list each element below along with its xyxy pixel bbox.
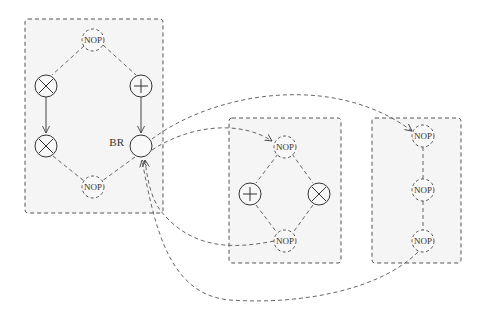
b1-multiply-node-1 — [35, 75, 57, 97]
nop-label: NOP — [414, 185, 432, 195]
nop-label: NOP — [276, 236, 294, 246]
b2-add-node — [239, 183, 261, 205]
nop-label: NOP — [84, 182, 102, 192]
nop-label: NOP — [414, 131, 432, 141]
b2-multiply-node — [308, 183, 330, 205]
nop-label: NOP — [414, 236, 432, 246]
b1-nop-bottom-node: NOP — [82, 176, 104, 198]
branch-label: BR — [109, 136, 124, 148]
b3-nop-3-node: NOP — [412, 230, 434, 252]
b1-multiply-node-2 — [35, 135, 57, 157]
nop-label: NOP — [84, 35, 102, 45]
diagram-canvas: NOP BR NOP NOP — [0, 0, 485, 323]
nop-label: NOP — [276, 142, 294, 152]
b1-add-node — [130, 75, 152, 97]
b3-nop-2-node: NOP — [412, 179, 434, 201]
b2-nop-top-node: NOP — [274, 136, 296, 158]
b2-nop-bottom-node: NOP — [274, 230, 296, 252]
b1-nop-top-node: NOP — [82, 29, 104, 51]
b3-nop-1-node: NOP — [412, 125, 434, 147]
